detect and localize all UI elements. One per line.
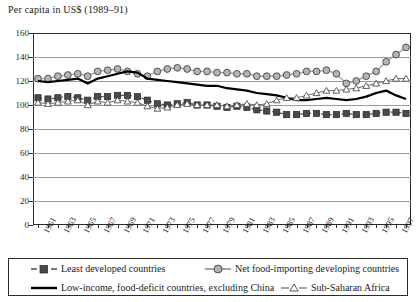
dashed-square-marker-icon (31, 263, 57, 275)
x-tick-mark (128, 225, 129, 228)
x-tick-mark (326, 225, 327, 228)
data-point-circle (174, 64, 181, 71)
x-tick-mark (227, 225, 228, 228)
y-tick-label: 140 (16, 52, 30, 62)
x-tick-mark (187, 225, 188, 228)
data-point-square (293, 112, 299, 118)
legend-row-bottom: Low-income, food-deficit countries, excl… (9, 278, 407, 297)
x-tick-mark (277, 225, 278, 228)
data-point-circle (393, 51, 400, 58)
legend-label: Net food-importing developing countries (235, 263, 399, 274)
x-tick-mark (88, 225, 89, 228)
data-point-triangle (263, 101, 270, 107)
data-point-circle (353, 78, 360, 85)
data-point-square (264, 108, 270, 114)
data-point-square (333, 112, 339, 118)
data-point-circle (333, 70, 340, 77)
x-tick-mark (247, 225, 248, 228)
x-tick-mark (366, 225, 367, 228)
data-point-square (353, 112, 359, 118)
series-1 (35, 44, 410, 87)
legend-label: Least developed countries (61, 263, 165, 274)
data-point-circle (283, 72, 290, 79)
data-point-circle (303, 68, 310, 75)
x-tick-mark (108, 225, 109, 228)
y-tick-label: 40 (20, 172, 29, 182)
series-line (38, 71, 406, 100)
legend-label: Low-income, food-deficit countries, excl… (61, 282, 274, 293)
data-point-triangle (144, 103, 151, 109)
data-point-circle (263, 73, 270, 80)
legend-entry-net-food-importing[interactable]: Net food-importing developing countries (205, 263, 399, 275)
data-point-circle (184, 66, 191, 73)
series-line (38, 47, 406, 83)
x-tick-mark (406, 225, 407, 228)
x-tick-mark (58, 225, 59, 228)
series-layer (33, 33, 411, 225)
x-tick-mark (177, 225, 178, 228)
data-point-square (303, 110, 309, 116)
legend-entry-low-income-food-deficit[interactable]: Low-income, food-deficit countries, excl… (31, 282, 274, 294)
open-triangle-marker-icon (281, 282, 307, 294)
legend-row-top: Least developed countries Net food-impor… (9, 259, 407, 278)
data-point-square (383, 109, 389, 115)
data-point-circle (154, 68, 161, 75)
data-point-circle (243, 70, 250, 77)
data-point-square (313, 110, 319, 116)
data-point-square (393, 109, 399, 115)
legend-entry-sub-saharan-africa[interactable]: Sub-Saharan Africa (281, 282, 390, 294)
x-tick-mark (167, 225, 168, 228)
data-point-circle (253, 73, 260, 80)
x-tick-mark (68, 225, 69, 228)
y-tick-label: 20 (20, 196, 29, 206)
y-tick-label: 120 (16, 76, 30, 86)
x-tick-mark (376, 225, 377, 228)
data-point-circle (373, 68, 380, 75)
solid-line-marker-icon (31, 282, 57, 294)
x-tick-mark (336, 225, 337, 228)
data-point-circle (403, 44, 410, 51)
x-tick-mark (197, 225, 198, 228)
x-tick-mark (396, 225, 397, 228)
data-point-circle (234, 70, 241, 77)
x-tick-mark (147, 225, 148, 228)
data-point-circle (54, 73, 61, 80)
data-point-circle (104, 67, 111, 74)
data-point-square (323, 112, 329, 118)
legend-label: Sub-Saharan Africa (311, 282, 390, 293)
data-point-square (403, 110, 409, 116)
data-point-circle (293, 70, 300, 77)
data-point-circle (114, 66, 121, 73)
x-tick-mark (48, 225, 49, 228)
data-point-circle (383, 58, 390, 65)
data-point-circle (214, 69, 221, 76)
x-tick-mark (98, 225, 99, 228)
x-tick-mark (38, 225, 39, 228)
series-0 (35, 92, 409, 117)
data-point-square (343, 110, 349, 116)
plot-area (33, 33, 411, 225)
data-point-square (373, 110, 379, 116)
chart-legend: Least developed countries Net food-impor… (8, 258, 408, 296)
data-point-circle (313, 68, 320, 75)
data-point-circle (204, 68, 211, 75)
data-point-circle (64, 72, 71, 79)
series-2 (38, 71, 406, 100)
y-axis: 160140120100806040200 (0, 33, 29, 225)
y-tick-label: 80 (20, 124, 29, 134)
x-tick-mark (307, 225, 308, 228)
circle-marker-icon (205, 263, 231, 275)
data-point-circle (273, 73, 280, 80)
data-point-square (284, 112, 290, 118)
data-point-circle (323, 67, 330, 74)
series-line (38, 95, 406, 114)
data-point-circle (224, 69, 231, 76)
y-tick-label: 60 (20, 148, 29, 158)
data-point-triangle (243, 101, 250, 107)
x-tick-mark (257, 225, 258, 228)
data-point-circle (84, 73, 91, 80)
x-tick-mark (297, 225, 298, 228)
legend-entry-least-developed[interactable]: Least developed countries (31, 263, 165, 275)
y-tick-label: 100 (16, 100, 30, 110)
x-tick-mark (346, 225, 347, 228)
